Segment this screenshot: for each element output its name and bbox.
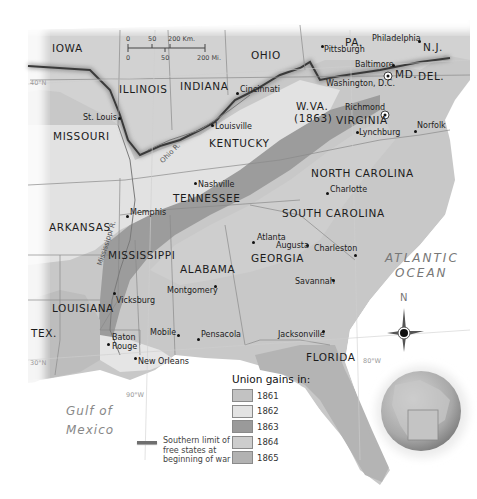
city-label-baton-rouge: Baton Rouge: [112, 333, 142, 351]
state-label-indiana: INDIANA: [180, 81, 229, 92]
state-label-ohio: OHIO: [251, 50, 281, 61]
state-label-virginia: VIRGINIA: [336, 115, 388, 126]
scale-km-200: 200 Km.: [168, 36, 195, 43]
gulf-label-line2: Mexico: [66, 424, 114, 436]
state-label-wva-year: (1863): [294, 113, 333, 124]
legend-swatch-1863: [232, 420, 253, 433]
coord-80w: 80°W: [363, 358, 381, 365]
state-label-iowa: IOWA: [52, 43, 83, 54]
city-dot-new-orleans: [134, 357, 137, 360]
legend-year: 1865: [257, 453, 279, 463]
legend-year: 1863: [257, 422, 279, 432]
ocean-label-ocean: OCEAN: [395, 267, 448, 279]
city-label-mobile: Mobile: [150, 329, 176, 337]
city-dot-pensacola: [197, 338, 200, 341]
city-dot-vicksburg: [113, 292, 116, 295]
state-label-del: DEL.: [418, 71, 444, 82]
city-dot-nashville: [194, 182, 197, 185]
state-label-south-carolina: SOUTH CAROLINA: [282, 208, 385, 219]
legend-item-1864: 1864: [232, 435, 310, 451]
state-label-kentucky: KENTUCKY: [209, 138, 270, 149]
legend-swatch-1865: [232, 451, 253, 464]
city-dot-mobile: [177, 334, 180, 337]
coord-40n: 40°N: [30, 80, 46, 87]
ocean-label-atlantic: ATLANTIC: [385, 252, 459, 264]
city-label-cincinnati: Cincinnati: [240, 86, 280, 94]
legend-year: 1862: [257, 406, 279, 416]
legend-title: Union gains in:: [232, 373, 310, 385]
city-label-charlotte: Charlotte: [330, 186, 367, 194]
coord-30n: 30°N: [30, 360, 46, 367]
legend: Union gains in: 1861 1862 1863 1864 1865: [232, 373, 310, 466]
city-dot-atlanta: [252, 241, 255, 244]
scale-km-0: 0: [126, 36, 130, 43]
state-label-florida: FLORIDA: [306, 352, 355, 363]
city-dot-charleston: [354, 254, 357, 257]
city-label-pensacola: Pensacola: [201, 331, 241, 339]
city-label-new-orleans: New Orleans: [138, 358, 189, 366]
state-label-nj: N.J.: [423, 42, 443, 53]
state-label-tennessee: TENNESSEE: [173, 193, 240, 204]
civil-war-union-gains-map: 0 50 200 Km. 0 50 200 Mi. IOWA ILLINOIS …: [0, 0, 477, 499]
gulf-label-line1: Gulf of: [66, 405, 113, 417]
city-label-montgomery: Montgomery: [167, 287, 218, 295]
city-dot-norfolk: [414, 130, 417, 133]
city-label-st-louis: St. Louis: [83, 114, 117, 122]
legend-item-1862: 1862: [232, 404, 310, 420]
limit-line-label: Southern limit of free states at beginni…: [163, 436, 233, 465]
state-label-mississippi: MISSISSIPPI: [108, 250, 175, 261]
coord-90w: 90°W: [126, 392, 144, 399]
scale-mi-50: 50: [161, 55, 169, 62]
legend-item-1861: 1861: [232, 388, 310, 404]
city-dot-charlotte: [326, 192, 329, 195]
city-label-richmond: Richmond: [345, 104, 385, 112]
city-label-lynchburg: Lynchburg: [359, 129, 400, 137]
city-label-vicksburg: Vicksburg: [116, 297, 155, 305]
city-label-louisville: Louisville: [215, 123, 252, 131]
city-label-augusta: Augusta: [276, 242, 309, 250]
legend-item-1865: 1865: [232, 450, 310, 466]
city-dot-cincinnati: [236, 92, 239, 95]
scale-km-50: 50: [148, 36, 156, 43]
city-label-philadelphia: Philadelphia: [372, 35, 421, 43]
state-label-alabama: ALABAMA: [180, 264, 235, 275]
legend-swatch-1864: [232, 436, 253, 449]
state-label-texas: TEX.: [31, 328, 57, 339]
city-label-washington-dc: Washington, D.C.: [326, 80, 395, 88]
state-label-north-carolina: NORTH CAROLINA: [311, 168, 414, 179]
city-label-nashville: Nashville: [198, 181, 234, 189]
city-label-baltimore: Baltimore: [355, 61, 394, 69]
legend-swatch-1861: [232, 389, 253, 402]
city-label-pittsburgh: Pittsburgh: [324, 46, 365, 54]
state-label-louisiana: LOUISIANA: [52, 303, 114, 314]
city-label-charleston: Charleston: [314, 245, 357, 253]
city-dot-louisville: [211, 124, 214, 127]
state-label-missouri: MISSOURI: [53, 131, 110, 142]
city-label-memphis: Memphis: [130, 209, 166, 217]
legend-item-1863: 1863: [232, 419, 310, 435]
state-label-arkansas: ARKANSAS: [49, 222, 111, 233]
legend-year: 1864: [257, 437, 279, 447]
scale-mi-200: 200 Mi.: [197, 55, 221, 62]
limit-line-legend: Southern limit of free states at beginni…: [137, 436, 233, 465]
locator-globe: [376, 366, 468, 458]
legend-swatch-1862: [232, 405, 253, 418]
state-label-md: MD.: [395, 69, 417, 80]
city-dot-baton-rouge: [107, 343, 110, 346]
city-label-norfolk: Norfolk: [417, 122, 446, 130]
city-label-jacksonville: Jacksonville: [278, 331, 325, 339]
state-label-georgia: GEORGIA: [251, 253, 304, 264]
city-label-savannah: Savannah: [295, 278, 335, 286]
scale-mi-0: 0: [126, 55, 130, 62]
city-dot-memphis: [126, 215, 129, 218]
state-label-illinois: ILLINOIS: [119, 84, 168, 95]
city-dot-st-louis: [118, 117, 121, 120]
compass-north-label: N: [400, 293, 407, 303]
state-label-wva: W.VA.: [296, 101, 328, 112]
legend-year: 1861: [257, 391, 279, 401]
limit-line-swatch: [137, 441, 157, 444]
